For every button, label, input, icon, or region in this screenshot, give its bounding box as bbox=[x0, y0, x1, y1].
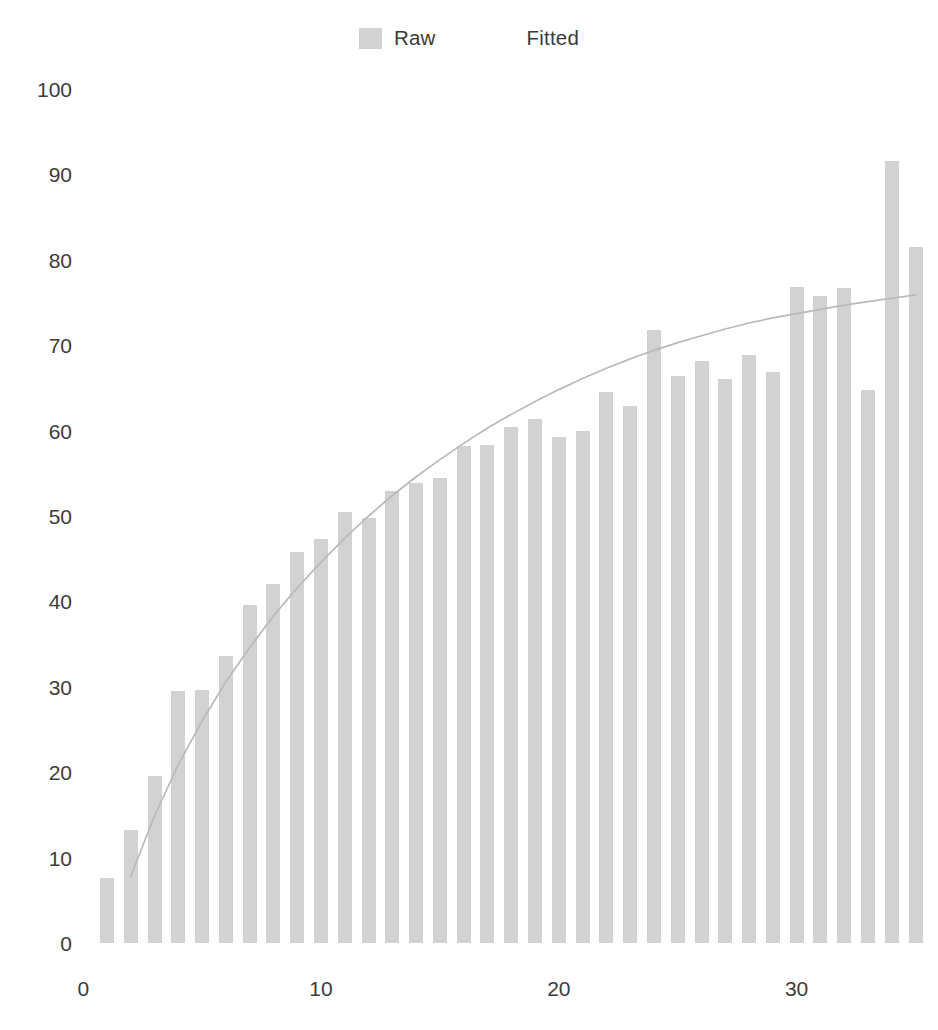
y-axis-tick-label: 70 bbox=[10, 335, 72, 356]
y-axis-tick-label: 20 bbox=[10, 762, 72, 783]
y-axis-tick-label: 90 bbox=[10, 164, 72, 185]
y-axis-tick-label: 50 bbox=[10, 506, 72, 527]
y-axis: 0102030405060708090100 bbox=[0, 0, 72, 1030]
x-axis-tick-label: 30 bbox=[785, 978, 808, 999]
y-axis-tick-label: 40 bbox=[10, 591, 72, 612]
y-axis-tick-label: 80 bbox=[10, 249, 72, 270]
y-axis-tick-label: 0 bbox=[10, 933, 72, 954]
x-axis-tick-label: 10 bbox=[309, 978, 332, 999]
x-axis-tick-label: 0 bbox=[77, 978, 89, 999]
x-axis-tick-label: 20 bbox=[547, 978, 570, 999]
y-axis-tick-label: 60 bbox=[10, 420, 72, 441]
y-axis-tick-label: 10 bbox=[10, 847, 72, 868]
x-axis: 0102030 bbox=[0, 978, 938, 1018]
plot-area bbox=[0, 0, 938, 1030]
chart-page: Raw Fitted 0102030405060708090100 010203… bbox=[0, 0, 938, 1030]
y-axis-tick-label: 30 bbox=[10, 676, 72, 697]
fitted-curve bbox=[0, 0, 938, 1030]
line-series-fitted bbox=[0, 0, 938, 1030]
y-axis-tick-label: 100 bbox=[10, 79, 72, 100]
